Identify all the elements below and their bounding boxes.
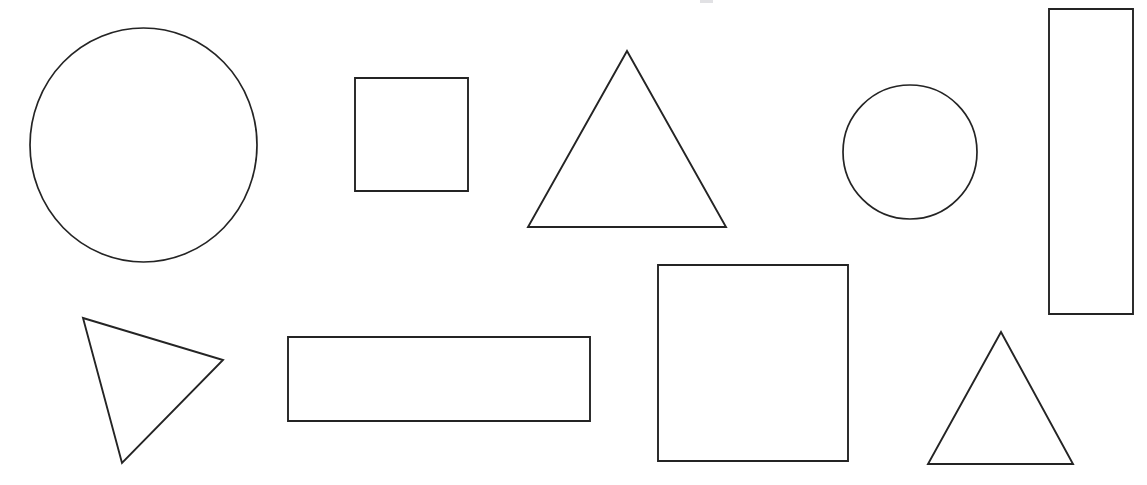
figure-canvas: [0, 0, 1147, 485]
shapes-svg-surface: [0, 0, 1147, 485]
top-edge-artifact-mark: [700, 0, 713, 3]
